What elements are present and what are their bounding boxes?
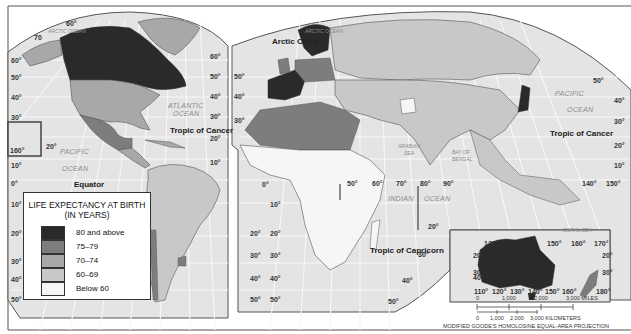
indian-ocean-label-2: OCEAN (424, 195, 451, 202)
bay-of-bengal-label-2: BENGAL (452, 156, 473, 162)
pacific-ocean-label-right-1: PACIFIC (555, 90, 585, 97)
svg-text:60°: 60° (210, 53, 221, 60)
svg-text:140°: 140° (528, 288, 543, 295)
svg-text:20°: 20° (428, 223, 439, 230)
equator-label: Equator (74, 180, 104, 189)
legend-item: 80 and above (41, 226, 151, 240)
svg-text:50°: 50° (593, 77, 604, 84)
svg-text:50°: 50° (210, 73, 221, 80)
indian-ocean-label-1: INDIAN (388, 195, 414, 202)
svg-text:140°: 140° (582, 180, 597, 187)
svg-text:20°: 20° (270, 230, 281, 237)
svg-text:30°: 30° (614, 118, 625, 125)
svg-text:30°: 30° (11, 114, 22, 121)
atlantic-ocean-label-1: ATLANTIC (167, 102, 204, 109)
tropic-of-capricorn-label: Tropic of Capricorn (370, 246, 444, 255)
legend-swatch (41, 254, 65, 268)
svg-text:30°: 30° (210, 113, 221, 120)
svg-text:60°: 60° (11, 57, 22, 64)
svg-text:50°: 50° (250, 296, 261, 303)
svg-text:30°: 30° (234, 117, 245, 124)
svg-text:20°: 20° (11, 230, 22, 237)
svg-text:150°: 150° (545, 288, 560, 295)
svg-text:50°: 50° (11, 296, 22, 303)
svg-text:120°: 120° (484, 240, 499, 247)
arabian-sea-label-1: ARABIAN (397, 143, 420, 149)
svg-text:50°: 50° (270, 296, 281, 303)
legend-item: Below 60 (41, 282, 151, 296)
svg-text:20°: 20° (250, 230, 261, 237)
svg-text:60°: 60° (66, 20, 77, 27)
svg-text:110°: 110° (474, 288, 488, 295)
scale-km-3000: 3,000 KILOMETERS (530, 315, 581, 321)
arctic-circle-label: Arctic Circle (272, 37, 320, 46)
tropic-of-cancer-label-right: Tropic of Cancer (550, 129, 613, 138)
svg-text:70°: 70° (396, 180, 407, 187)
scale-km-1000: 1,000 (490, 315, 504, 321)
svg-text:20°: 20° (473, 252, 484, 259)
svg-text:50°: 50° (347, 180, 358, 187)
atlantic-ocean-label-2: OCEAN (173, 110, 200, 117)
legend-label: 75–79 (76, 242, 98, 251)
svg-text:150°: 150° (547, 240, 562, 247)
svg-text:40°: 40° (402, 277, 413, 284)
scale-km-2000: 2,000 (510, 315, 524, 321)
svg-text:90°: 90° (443, 180, 454, 187)
scale-miles-1000: 1,000 (502, 295, 516, 301)
hawaii-lat-label: 20° (46, 143, 57, 150)
svg-text:10°: 10° (11, 201, 22, 208)
svg-text:50°: 50° (388, 298, 399, 305)
legend-item: 70–74 (41, 254, 151, 268)
svg-text:20°: 20° (614, 142, 625, 149)
svg-text:50°: 50° (11, 74, 22, 81)
pacific-ocean-label-right-2: OCEAN (567, 106, 594, 113)
svg-text:60°: 60° (372, 180, 383, 187)
tropic-of-cancer-label-left: Tropic of Cancer (170, 126, 233, 135)
scale-km-0: 0 (476, 315, 479, 321)
svg-text:150°: 150° (606, 180, 621, 187)
svg-text:30°: 30° (11, 258, 22, 265)
svg-text:30°: 30° (250, 252, 261, 259)
legend-title: LIFE EXPECTANCY AT BIRTH (IN YEARS) (24, 200, 150, 220)
svg-text:10°: 10° (11, 162, 22, 169)
legend-swatch (41, 226, 65, 240)
bay-of-bengal-label-1: BAY OF (452, 149, 471, 155)
svg-text:10°: 10° (270, 201, 281, 208)
hawaii-lon-label: 160° (10, 147, 25, 154)
pacific-ocean-label-left-2: OCEAN (62, 165, 89, 172)
uk (278, 58, 290, 74)
legend-label: 70–74 (76, 256, 98, 265)
svg-text:40°: 40° (270, 275, 281, 282)
svg-text:20°: 20° (602, 252, 613, 259)
svg-text:80°: 80° (420, 180, 431, 187)
coral-sea-label: CORAL SEA (563, 227, 592, 233)
svg-text:50°: 50° (234, 73, 245, 80)
legend: LIFE EXPECTANCY AT BIRTH (IN YEARS) 80 a… (23, 192, 151, 300)
svg-text:40°: 40° (11, 276, 22, 283)
svg-text:10°: 10° (614, 162, 625, 169)
svg-text:40°: 40° (11, 94, 22, 101)
svg-text:40°: 40° (210, 93, 221, 100)
scale-miles-2000: 2,000 (534, 295, 548, 301)
arabian-sea-label-2: SEA (404, 150, 415, 156)
legend-item: 60–69 (41, 268, 151, 282)
arctic-ocean-label-left: ARCTIC OCEAN (47, 28, 86, 34)
svg-text:160°: 160° (562, 288, 577, 295)
legend-label: 60–69 (76, 270, 98, 279)
legend-swatch (41, 268, 65, 282)
svg-text:40°: 40° (250, 275, 261, 282)
svg-text:170°: 170° (594, 240, 609, 247)
scale-labels: 0 1,000 2,000 3,000 MILES 0 1,000 2,000 … (470, 295, 620, 319)
legend-swatch (41, 282, 65, 296)
svg-text:120°: 120° (492, 288, 507, 295)
svg-text:40°: 40° (473, 274, 484, 281)
legend-title-line2: (IN YEARS) (24, 210, 150, 220)
svg-text:40°: 40° (614, 97, 625, 104)
svg-text:30°: 30° (602, 269, 613, 276)
scale-miles-3000: 3,000 MILES (566, 295, 598, 301)
arctic-ocean-label-right: ARCTIC OCEAN (304, 28, 343, 34)
svg-text:160°: 160° (571, 240, 586, 247)
svg-text:0°: 0° (11, 180, 18, 187)
legend-title-line1: LIFE EXPECTANCY AT BIRTH (24, 200, 150, 210)
legend-label: Below 60 (76, 284, 109, 293)
